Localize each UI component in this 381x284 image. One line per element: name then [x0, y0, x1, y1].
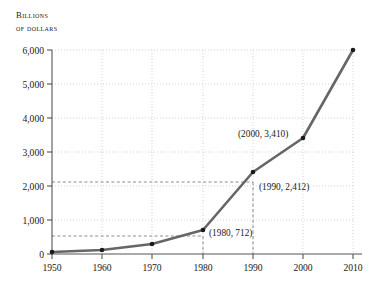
y-axis-title-line1: Billions: [16, 10, 48, 20]
data-point-1970: [150, 242, 155, 247]
data-point-1980: [201, 228, 206, 233]
y-axis-title-line2: of dollars: [16, 23, 58, 33]
x-tick-label-1970: 1970: [142, 262, 161, 273]
annotation-1980: (1980, 712): [209, 228, 252, 239]
annotation-2000: (2000, 3,410): [238, 129, 288, 140]
data-point-1950: [50, 250, 55, 255]
data-point-1990: [251, 170, 256, 175]
line-chart: Billions of dollars: [0, 0, 381, 284]
y-tick-label-5000: 5,000: [22, 79, 44, 90]
x-tick-label-2010: 2010: [343, 262, 362, 273]
y-tick-label-3000: 3,000: [22, 147, 44, 158]
chart-background: [0, 0, 381, 284]
y-tick-label-1000: 1,000: [22, 215, 44, 226]
x-tick-label-2000: 2000: [293, 262, 312, 273]
x-tick-label-1980: 1980: [193, 262, 212, 273]
y-tick-label-6000: 6,000: [22, 45, 44, 56]
x-tick-label-1960: 1960: [92, 262, 111, 273]
chart-container: Billions of dollars: [0, 0, 381, 284]
y-tick-label-0: 0: [39, 249, 44, 260]
y-tick-label-4000: 4,000: [22, 113, 44, 124]
data-point-1960: [100, 248, 105, 253]
data-point-2010: [351, 48, 356, 53]
annotation-1990: (1990, 2,412): [259, 182, 309, 193]
x-tick-label-1950: 1950: [42, 262, 61, 273]
x-tick-label-1990: 1990: [243, 262, 262, 273]
y-tick-label-2000: 2,000: [22, 181, 44, 192]
data-point-2000: [301, 136, 306, 141]
